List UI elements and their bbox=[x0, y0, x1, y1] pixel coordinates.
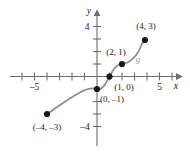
label-point-neg4-neg3: (–4, –3) bbox=[33, 122, 62, 132]
x-axis-label: x bbox=[173, 80, 179, 91]
y-tick-label-neg4: –4 bbox=[79, 122, 90, 132]
point-0-neg1 bbox=[94, 86, 100, 92]
x-axis-arrow bbox=[176, 73, 183, 80]
label-point-1-0: (1, 0) bbox=[114, 82, 134, 92]
point-1-0 bbox=[106, 73, 112, 79]
y-axis bbox=[93, 10, 101, 147]
label-point-2-1: (2, 1) bbox=[106, 47, 126, 57]
graph-figure: y x –5 5 4 –4 (4, 3) (2, 1) (1, 0) (0, –… bbox=[0, 0, 190, 154]
point-neg4-neg3 bbox=[44, 111, 50, 117]
label-point-0-neg1: (0, –1) bbox=[100, 94, 124, 104]
point-4-3 bbox=[142, 37, 148, 43]
y-axis-arrow bbox=[94, 10, 101, 17]
point-2-1 bbox=[119, 61, 125, 67]
label-point-4-3: (4, 3) bbox=[136, 21, 156, 31]
coordinate-plane: y x –5 5 4 –4 (4, 3) (2, 1) (1, 0) (0, –… bbox=[0, 0, 190, 154]
x-tick-label-neg5: –5 bbox=[29, 82, 40, 92]
x-tick-label-pos5: 5 bbox=[157, 82, 162, 92]
curve-label-g: g bbox=[136, 54, 141, 64]
y-tick-label-pos4: 4 bbox=[85, 22, 90, 32]
y-axis-label: y bbox=[86, 5, 92, 16]
